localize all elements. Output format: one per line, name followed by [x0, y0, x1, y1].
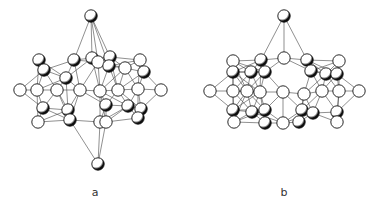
cluster-structure-a — [14, 10, 167, 170]
atom-sphere — [298, 88, 310, 100]
atom-sphere — [353, 85, 365, 97]
atom-sphere — [228, 116, 240, 128]
atom-sphere — [331, 116, 343, 128]
atom-sphere — [204, 85, 216, 97]
atom-sphere — [259, 117, 271, 129]
cluster-structure-b — [204, 10, 365, 129]
atom-sphere — [305, 65, 317, 77]
atom-sphere — [31, 84, 43, 96]
atom-sphere — [92, 56, 104, 68]
atom-sphere — [103, 60, 115, 72]
atom-sphere — [100, 99, 112, 111]
atom-sphere — [320, 68, 332, 80]
atom-sphere — [100, 116, 112, 128]
atom-sphere — [134, 54, 146, 66]
atom-sphere — [331, 68, 343, 80]
atom-sphere — [293, 116, 305, 128]
atom-sphere — [74, 84, 86, 96]
atom-sphere — [155, 84, 167, 96]
atom-sphere — [333, 85, 345, 97]
atom-sphere — [94, 85, 106, 97]
atom-sphere — [259, 66, 271, 78]
atom-sphere — [92, 158, 104, 170]
atom-sphere — [333, 55, 345, 67]
atom-sphere — [316, 85, 328, 97]
atom-sphere — [32, 116, 44, 128]
atom-sphere — [227, 55, 239, 67]
atom-sphere — [38, 64, 50, 76]
panel-label-a: a — [92, 186, 99, 199]
atom-sphere — [227, 85, 239, 97]
atom-sphere — [112, 84, 124, 96]
atom-sphere — [60, 72, 72, 84]
atom-sphere — [227, 104, 239, 116]
atom-sphere — [64, 114, 76, 126]
atom-sphere — [85, 10, 97, 22]
atom-sphere — [245, 66, 257, 78]
atom-sphere — [277, 86, 289, 98]
atom-sphere — [255, 54, 267, 66]
atom-sphere — [132, 112, 144, 124]
panel-label-b: b — [281, 186, 288, 199]
atom-sphere — [68, 54, 80, 66]
atom-sphere — [278, 52, 290, 64]
atom-sphere — [259, 104, 271, 116]
atom-sphere — [51, 84, 63, 96]
atom-sphere — [227, 66, 239, 78]
atom-sphere — [138, 66, 150, 78]
atom-sphere — [254, 86, 266, 98]
molecular-cluster-figure — [0, 0, 379, 211]
atom-sphere — [14, 84, 26, 96]
atom-sphere — [37, 102, 49, 114]
atom-sphere — [246, 106, 258, 118]
atom-sphere — [296, 104, 308, 116]
atom-sphere — [277, 117, 289, 129]
atom-sphere — [301, 54, 313, 66]
atom-sphere — [132, 83, 144, 95]
atom-sphere — [307, 107, 319, 119]
atom-sphere — [278, 10, 290, 22]
atom-sphere — [119, 62, 131, 74]
atom-sphere — [122, 100, 134, 112]
atom-sphere — [241, 85, 253, 97]
